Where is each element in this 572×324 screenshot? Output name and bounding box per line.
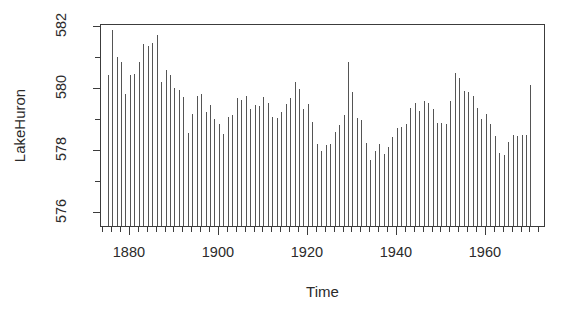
x-tick-label: 1940	[380, 244, 412, 260]
y-tick-label: 578	[53, 128, 69, 170]
x-tick-minor	[343, 227, 344, 232]
bar	[268, 103, 269, 226]
bar	[130, 75, 131, 226]
bar	[490, 124, 491, 226]
y-tick-label: 580	[53, 66, 69, 108]
bar	[246, 96, 247, 226]
bar	[197, 96, 198, 226]
x-tick-minor	[191, 227, 192, 232]
bar	[255, 105, 256, 226]
data-series-lakehuron-levels	[101, 25, 544, 226]
bar	[433, 109, 434, 226]
bar	[161, 82, 162, 226]
bar	[437, 123, 438, 227]
bar	[134, 74, 135, 226]
bar	[237, 98, 238, 226]
bar	[148, 46, 149, 226]
x-tick-minor	[156, 227, 157, 232]
x-tick-major	[396, 227, 397, 235]
bar	[392, 137, 393, 226]
x-tick-minor	[432, 227, 433, 232]
bar	[419, 111, 420, 226]
bar	[223, 134, 224, 226]
x-tick-minor	[262, 227, 263, 232]
bar	[157, 35, 158, 226]
bar	[219, 124, 220, 226]
x-tick-major	[129, 227, 130, 235]
bar	[513, 135, 514, 226]
x-tick-minor	[245, 227, 246, 232]
x-tick-minor	[173, 227, 174, 232]
bar	[143, 44, 144, 226]
bar	[517, 136, 518, 226]
bar	[344, 115, 345, 226]
x-tick-minor	[494, 227, 495, 232]
bar	[446, 124, 447, 226]
bar	[263, 97, 264, 226]
lakehuron-time-series-figure: LakeHuron 576578580582 Time 188019001920…	[0, 0, 572, 324]
x-tick-minor	[369, 227, 370, 232]
bar	[108, 75, 109, 226]
x-tick-minor	[138, 227, 139, 232]
x-tick-minor	[405, 227, 406, 232]
bar	[464, 91, 465, 226]
x-tick-minor	[458, 227, 459, 232]
y-tick-major	[93, 212, 100, 213]
bar	[370, 160, 371, 226]
bar	[250, 109, 251, 226]
x-tick-minor	[254, 227, 255, 232]
bar	[401, 127, 402, 226]
x-tick-label: 1920	[291, 244, 323, 260]
x-tick-minor	[289, 227, 290, 232]
y-axis-tick-labels: 576578580582	[0, 0, 92, 324]
x-tick-minor	[351, 227, 352, 232]
bar	[468, 92, 469, 226]
bar	[450, 101, 451, 226]
bar	[277, 118, 278, 226]
bar	[361, 120, 362, 226]
bar	[241, 100, 242, 226]
bar	[214, 119, 215, 226]
bar	[188, 133, 189, 226]
bar	[375, 151, 376, 226]
bar	[125, 94, 126, 226]
bar	[170, 75, 171, 226]
bar	[397, 128, 398, 226]
bar	[473, 96, 474, 226]
bar	[201, 94, 202, 226]
bar	[326, 145, 327, 227]
bar	[526, 135, 527, 226]
x-tick-minor	[529, 227, 530, 232]
x-tick-minor	[440, 227, 441, 232]
x-tick-minor	[503, 227, 504, 232]
bar	[179, 90, 180, 226]
bar	[477, 108, 478, 226]
bar	[121, 62, 122, 226]
bar	[459, 78, 460, 226]
x-tick-minor	[165, 227, 166, 232]
x-tick-minor	[476, 227, 477, 232]
bar	[210, 105, 211, 226]
bar	[308, 104, 309, 226]
bar	[192, 114, 193, 226]
bar	[455, 73, 456, 226]
bar	[415, 103, 416, 226]
x-tick-minor	[200, 227, 201, 232]
x-tick-minor	[147, 227, 148, 232]
bar	[299, 89, 300, 226]
x-tick-minor	[227, 227, 228, 232]
bar	[522, 135, 523, 226]
bar	[232, 115, 233, 226]
bar	[357, 118, 358, 226]
bar	[272, 117, 273, 226]
bar	[530, 85, 531, 226]
x-tick-minor	[209, 227, 210, 232]
x-tick-label: 1900	[202, 244, 234, 260]
x-tick-label: 1880	[113, 244, 145, 260]
x-axis-title: Time	[100, 283, 545, 300]
bar	[174, 88, 175, 226]
bar	[428, 103, 429, 226]
bar	[259, 106, 260, 226]
x-tick-major	[485, 227, 486, 235]
bar	[335, 132, 336, 226]
